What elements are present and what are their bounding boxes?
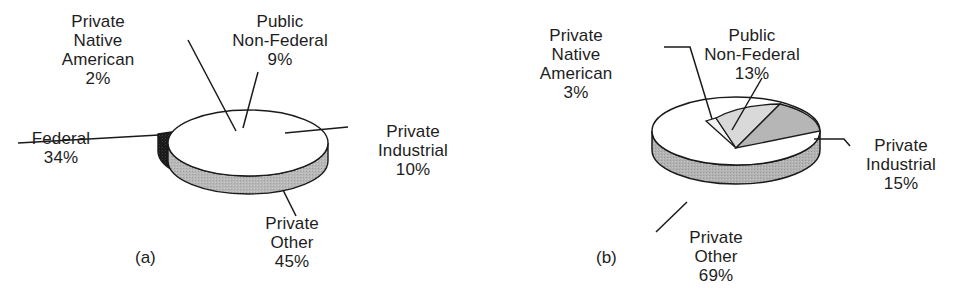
chart-panel-b: Private Native American 3% Public Non-Fe… [484,0,968,299]
label-public-non-federal-a: Public Non-Federal 9% [212,12,348,69]
leader-line-private-other [283,190,296,216]
slice-private-other-top [168,110,328,176]
caption-a: (a) [135,248,156,267]
chart-panel-a: Private Native American 2% Public Non-Fe… [0,0,484,299]
label-private-other-a: Private Other 45% [228,214,356,271]
pie-chart-figure: Private Native American 2% Public Non-Fe… [0,0,968,299]
label-public-non-federal-b: Public Non-Federal 13% [680,26,824,83]
label-private-native-american-a: Private Native American 2% [14,12,182,88]
label-federal-a: Federal 34% [2,129,120,167]
label-private-native-american-b: Private Native American 3% [492,26,660,102]
caption-b: (b) [596,248,617,267]
label-private-industrial-a: Private Industrial 10% [348,122,478,179]
label-private-industrial-b: Private Industrial 15% [836,136,966,193]
label-private-other-b: Private Other 69% [660,228,772,285]
